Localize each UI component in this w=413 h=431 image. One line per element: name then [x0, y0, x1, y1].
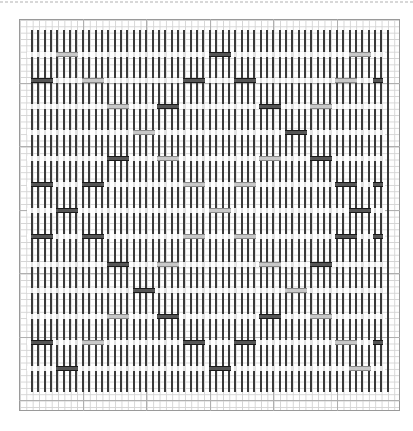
weft-float-dark	[56, 208, 78, 213]
weft-row-dots	[27, 130, 385, 135]
weft-float-dark	[259, 314, 281, 319]
weft-float-dark	[157, 104, 179, 109]
weft-float-grey	[234, 234, 256, 239]
weft-float-dark	[234, 78, 256, 83]
weft-float-dark	[183, 340, 205, 345]
weft-float-dark	[31, 182, 53, 187]
weft-float-dark	[107, 262, 129, 267]
weft-float-dark	[82, 182, 104, 187]
weft-float-grey	[234, 182, 256, 187]
weft-float-grey	[157, 156, 179, 161]
weft-float-grey	[82, 78, 104, 83]
weft-float-grey	[107, 314, 129, 319]
weft-row-dots	[27, 340, 385, 345]
weft-float-dark	[107, 156, 129, 161]
weft-float-grey	[82, 340, 104, 345]
weft-float-dark	[373, 78, 383, 83]
weft-row-dots	[27, 234, 385, 239]
weft-float-grey	[259, 156, 281, 161]
weft-float-dark	[373, 234, 383, 239]
weft-float-grey	[310, 104, 332, 109]
weft-float-grey	[310, 314, 332, 319]
top-dashed-rule	[0, 1, 413, 3]
weft-float-dark	[133, 288, 155, 293]
weft-float-grey	[335, 340, 357, 345]
weft-row-dots	[27, 288, 385, 293]
weft-float-dark	[373, 340, 383, 345]
weft-float-grey	[349, 366, 371, 371]
weft-float-dark	[183, 78, 205, 83]
weft-float-dark	[335, 182, 357, 187]
weft-float-grey	[157, 262, 179, 267]
weft-float-dark	[234, 340, 256, 345]
weft-float-dark	[82, 234, 104, 239]
weft-row-dots	[27, 52, 385, 57]
weft-float-dark	[310, 262, 332, 267]
weft-float-grey	[335, 78, 357, 83]
weft-float-grey	[183, 234, 205, 239]
weft-float-grey	[285, 288, 307, 293]
weft-float-dark	[157, 314, 179, 319]
weft-row-dots	[27, 182, 385, 187]
weft-float-grey	[183, 182, 205, 187]
weft-float-dark	[209, 366, 231, 371]
weft-float-dark	[310, 156, 332, 161]
weft-float-dark	[259, 104, 281, 109]
weft-float-grey	[107, 104, 129, 109]
weft-float-dark	[349, 208, 371, 213]
weft-float-grey	[259, 262, 281, 267]
weft-float-dark	[335, 234, 357, 239]
weft-float-dark	[209, 52, 231, 57]
major-gridline-horizontal	[19, 400, 400, 401]
weft-float-dark	[56, 366, 78, 371]
weft-row-dots	[27, 366, 385, 371]
weft-row-dots	[27, 78, 385, 83]
weft-float-dark	[31, 234, 53, 239]
weft-float-dark	[285, 130, 307, 135]
weft-row-dots	[27, 208, 385, 213]
weft-float-grey	[56, 52, 78, 57]
weft-float-dark	[373, 182, 383, 187]
warp-thread	[387, 30, 389, 392]
weft-float-dark	[31, 340, 53, 345]
weft-float-dark	[31, 78, 53, 83]
weft-float-grey	[209, 208, 231, 213]
weft-float-grey	[133, 130, 155, 135]
weft-float-grey	[349, 52, 371, 57]
